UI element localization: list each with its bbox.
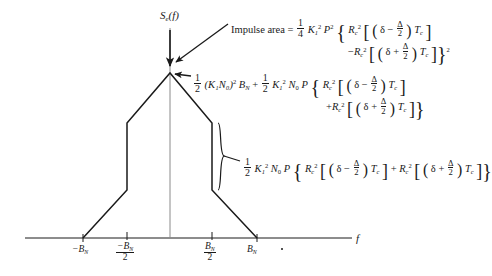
impulse-area-formula-line1: Impulse area = 1 4 K12 P2 { Rc2 [ ( δ − … xyxy=(231,18,431,43)
peak-value-formula-line1: 1 2 (K₁N₀)2 BN + 1 2 K12 N0 P { Rc2 [ ( … xyxy=(193,73,406,98)
impulse-coefficient-fraction: 1 4 xyxy=(297,18,304,39)
floor-coefficient-fraction: 1 2 xyxy=(244,157,251,178)
y-axis-label: Se(f) xyxy=(160,10,179,23)
half-delta-fraction: Δ 2 xyxy=(397,20,403,38)
x-tick-label-pos-bn-half: BN 2 xyxy=(203,242,217,262)
impulse-lead-text: Impulse area = xyxy=(231,24,293,35)
impulse-leader-line xyxy=(176,24,228,62)
impulse-area-formula-line2: −Rc2 [ ( δ + Δ 2 ) Tc ]}2 xyxy=(348,42,450,65)
x-tick-label-neg-bn-half: −BN 2 xyxy=(115,242,135,262)
peak-coefficient-fraction-2: 1 2 xyxy=(262,73,269,94)
floor-value-formula: 1 2 K12 N0 P { Rc2 [ ( δ − Δ 2 ) Tc ] + … xyxy=(243,157,492,182)
x-tick-label-neg-bn: −BN xyxy=(72,244,88,255)
x-tick-label-pos-bn: BN xyxy=(247,244,257,255)
plateau-brace xyxy=(218,123,224,190)
floor-leader-line xyxy=(224,156,240,161)
x-axis-label: f xyxy=(356,232,359,244)
peak-coefficient-fraction-1: 1 2 xyxy=(194,73,201,94)
peak-value-formula-line2: +Rc2 [ ( δ + Δ 2 ) Tc ]} xyxy=(326,97,425,120)
stray-dot xyxy=(281,248,283,250)
peak-leader-line xyxy=(175,74,191,76)
